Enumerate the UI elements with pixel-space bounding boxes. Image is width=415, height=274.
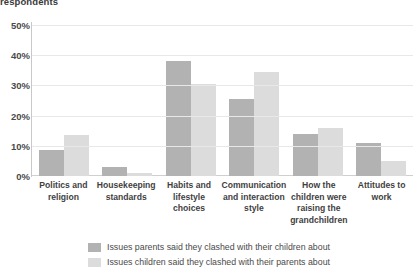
legend-item[interactable]: Issues parents said they clashed with th…	[88, 241, 330, 253]
bar-group	[223, 25, 287, 176]
gridline	[32, 116, 413, 117]
bar[interactable]	[39, 150, 64, 176]
gridline	[32, 146, 413, 147]
category-label: Politics and religion	[32, 180, 95, 232]
y-axis-tick-label: 0%	[0, 171, 30, 182]
bar-chart: respondents 0%10%20%30%40%50% Politics a…	[0, 0, 415, 274]
category-labels: Politics and religionHousekeeping standa…	[32, 180, 413, 232]
bar-group	[286, 25, 350, 176]
bar[interactable]	[229, 99, 254, 176]
bar[interactable]	[293, 134, 318, 176]
bar[interactable]	[127, 173, 152, 176]
legend-swatch-icon	[88, 243, 101, 252]
bar-group	[350, 25, 414, 176]
category-label: Housekeeping standards	[95, 180, 158, 232]
chart-legend: Issues parents said they clashed with th…	[88, 241, 330, 268]
y-axis-tick-label: 10%	[0, 140, 30, 151]
category-label: Habits and lifestyle choices	[158, 180, 221, 232]
bar-group	[32, 25, 96, 176]
legend-swatch-icon	[88, 258, 101, 267]
bar[interactable]	[64, 135, 89, 176]
bar[interactable]	[102, 167, 127, 176]
legend-label: Issues children said they clashed with t…	[107, 257, 330, 267]
plot-area	[32, 25, 413, 176]
y-axis-tick-label: 50%	[0, 20, 30, 31]
bar-group	[96, 25, 160, 176]
gridline	[32, 55, 413, 56]
category-label: Communication and interaction style	[220, 180, 287, 232]
y-axis-tick-label: 20%	[0, 110, 30, 121]
bar[interactable]	[254, 72, 279, 176]
bar[interactable]	[318, 128, 343, 176]
bar-groups	[32, 25, 413, 176]
category-label: Attitudes to work	[350, 180, 413, 232]
gridline	[32, 25, 413, 26]
bar[interactable]	[166, 61, 191, 176]
y-axis: 0%10%20%30%40%50%	[0, 25, 30, 176]
legend-label: Issues parents said they clashed with th…	[107, 242, 330, 252]
category-label: How the children were raising the grandc…	[287, 180, 350, 232]
gridline	[32, 85, 413, 86]
y-axis-tick-label: 40%	[0, 50, 30, 61]
bar-group	[159, 25, 223, 176]
y-axis-tick-label: 30%	[0, 80, 30, 91]
bar[interactable]	[191, 84, 216, 176]
chart-title: respondents	[0, 0, 58, 8]
bar[interactable]	[356, 143, 381, 176]
legend-item[interactable]: Issues children said they clashed with t…	[88, 256, 330, 268]
bar[interactable]	[381, 161, 406, 176]
